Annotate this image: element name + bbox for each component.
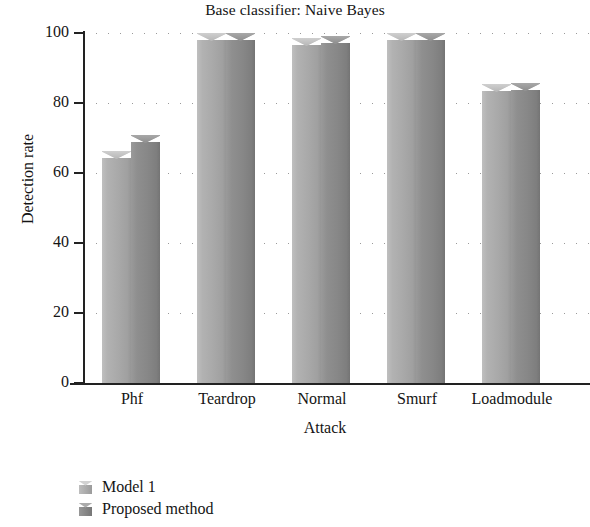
legend-label-proposed-method: Proposed method [102,500,214,518]
y-tick-label-0: 0 [9,373,69,391]
bar-smurf-model-1 [387,33,416,383]
bar-body [131,142,160,383]
bar-phf-model-1 [102,151,131,383]
bar-normal-proposed-method [321,36,350,383]
y-tick-label-80: 80 [9,93,69,111]
bar-body [197,40,226,383]
bar-body [102,158,131,383]
bar-body [292,45,321,383]
y-tick-60 [74,172,84,174]
bar-loadmodule-model-1 [482,84,511,383]
bar-body [226,40,255,383]
y-tick-label-60: 60 [9,163,69,181]
bar-teardrop-proposed-method [226,33,255,383]
chart-legend: Model 1 Proposed method [79,476,214,520]
bar-body [387,40,416,383]
bar-phf-proposed-method [131,135,160,383]
y-axis-line [83,31,85,384]
swatch-body [79,507,92,516]
y-tick-40 [74,242,84,244]
plot-area [84,33,590,383]
bar-body [482,91,511,383]
y-tick-0 [74,382,84,384]
legend-item-model-1: Model 1 [79,476,214,498]
bar-loadmodule-proposed-method [511,83,540,383]
y-tick-20 [74,312,84,314]
swatch-body [79,485,92,494]
x-axis-line [70,383,590,385]
bar-body [321,43,350,383]
bar-chart-figure: Base classifier: Naive Bayes [0,0,590,527]
legend-swatch-icon-proposed-method [79,503,92,516]
bar-normal-model-1 [292,38,321,383]
y-tick-100 [74,32,84,34]
y-tick-label-40: 40 [9,233,69,251]
legend-label-model-1: Model 1 [102,478,156,496]
chart-title: Base classifier: Naive Bayes [0,1,590,19]
y-tick-label-20: 20 [9,303,69,321]
y-tick-80 [74,102,84,104]
y-axis-title: Detection rate [19,89,37,269]
legend-item-proposed-method: Proposed method [79,498,214,520]
legend-swatch-icon-model-1 [79,481,92,494]
bar-body [511,90,540,383]
x-tick-label-loadmodule: Loadmodule [442,390,582,408]
bar-teardrop-model-1 [197,33,226,383]
x-axis-title: Attack [84,419,566,437]
y-tick-label-100: 100 [9,23,69,41]
bar-body [416,40,445,383]
gridline-100 [84,33,590,34]
bar-smurf-proposed-method [416,33,445,383]
